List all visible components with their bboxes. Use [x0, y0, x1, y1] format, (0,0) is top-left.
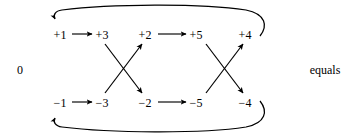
- cycle-diagram: 0 equals +1 +3 +2 +5 +4 −1 −3 −2 −5 −4: [0, 0, 357, 135]
- node-plus-1: +1: [54, 29, 67, 41]
- node-plus-4: +4: [239, 29, 252, 41]
- node-minus-2: −2: [139, 97, 152, 109]
- node-minus-3: −3: [96, 97, 109, 109]
- loop-minus4-to-minus1: [54, 101, 264, 132]
- node-plus-5: +5: [190, 29, 203, 41]
- left-label-zero: 0: [17, 64, 23, 76]
- right-label-equals: equals: [310, 64, 341, 76]
- node-plus-2: +2: [139, 29, 152, 41]
- loop-plus4-to-plus1: [54, 5, 264, 36]
- node-minus-1: −1: [54, 97, 67, 109]
- diagram-canvas: [0, 0, 357, 135]
- node-minus-5: −5: [190, 97, 203, 109]
- node-minus-4: −4: [239, 97, 252, 109]
- node-plus-3: +3: [96, 29, 109, 41]
